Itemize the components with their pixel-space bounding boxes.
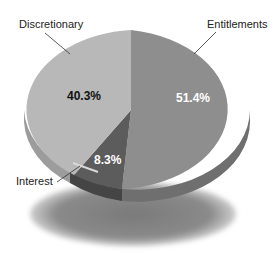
pie-chart: Discretionary Entitlements Interest 40.3… — [0, 0, 274, 253]
pct-interest: 8.3% — [94, 153, 122, 167]
slice-entitlements — [122, 30, 228, 189]
leader-discretionary — [45, 33, 70, 54]
label-interest: Interest — [16, 175, 53, 187]
pct-discretionary: 40.3% — [67, 89, 101, 103]
pct-entitlements: 51.4% — [176, 91, 210, 105]
leader-entitlements — [194, 32, 216, 54]
label-discretionary: Discretionary — [19, 18, 84, 30]
label-entitlements: Entitlements — [207, 18, 268, 30]
